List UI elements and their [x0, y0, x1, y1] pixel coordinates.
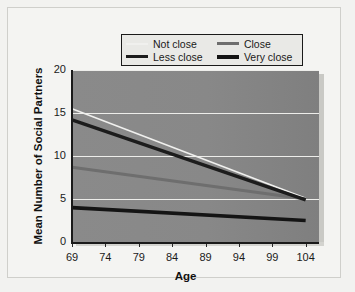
x-tick-label: 104: [291, 251, 321, 263]
x-tick-label: 99: [257, 251, 287, 263]
y-tick-label: 15: [44, 106, 66, 118]
x-tick-label: 74: [90, 251, 120, 263]
figure-container: Not close Close Less close Very close: [0, 0, 355, 292]
y-tick-label: 20: [44, 63, 66, 75]
x-tick-label: 79: [124, 251, 154, 263]
chart-panel: Not close Close Less close Very close: [7, 7, 341, 278]
y-axis-title: Mean Number of Social Partners: [32, 66, 44, 246]
x-tick-label: 84: [157, 251, 187, 263]
x-tick-label: 94: [224, 251, 254, 263]
x-axis-title: Age: [8, 270, 355, 282]
x-tick-label: 89: [191, 251, 221, 263]
y-tick-labels: 05101520: [8, 8, 355, 292]
y-tick-label: 5: [44, 192, 66, 204]
x-tick-label: 69: [57, 251, 87, 263]
y-tick-label: 0: [44, 235, 66, 247]
y-tick-label: 10: [44, 149, 66, 161]
